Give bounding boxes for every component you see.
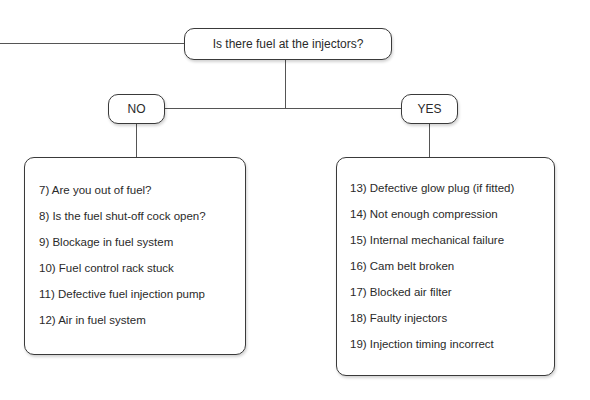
list-item: 10) Fuel control rack stuck [39,262,174,274]
incoming-connector [0,43,185,44]
list-item: 14) Not enough compression [350,208,498,220]
list-item: 16) Cam belt broken [350,260,454,272]
list-item: 19) Injection timing incorrect [350,338,494,350]
question-down-connector [285,59,286,109]
list-item: 12) Air in fuel system [39,314,146,326]
list-item: 7) Are you out of fuel? [39,184,152,196]
no-down-connector [136,123,137,157]
yes-causes-box: 13) Defective glow plug (if fitted) 14) … [336,157,555,376]
no-node: NO [108,94,165,124]
question-node: Is there fuel at the injectors? [184,28,392,60]
question-text: Is there fuel at the injectors? [213,37,364,51]
list-item: 15) Internal mechanical failure [350,234,504,246]
no-causes-box: 7) Are you out of fuel? 8) Is the fuel s… [24,157,246,355]
branch-horizontal-connector [165,108,402,109]
list-item: 18) Faulty injectors [350,312,447,324]
yes-label: YES [417,102,441,116]
no-label: NO [128,102,146,116]
yes-node: YES [401,94,458,124]
list-item: 9) Blockage in fuel system [39,236,173,248]
list-item: 17) Blocked air filter [350,286,452,298]
list-item: 8) Is the fuel shut-off cock open? [39,210,206,222]
list-item: 11) Defective fuel injection pump [39,288,205,300]
list-item: 13) Defective glow plug (if fitted) [350,182,514,194]
yes-down-connector [429,123,430,157]
